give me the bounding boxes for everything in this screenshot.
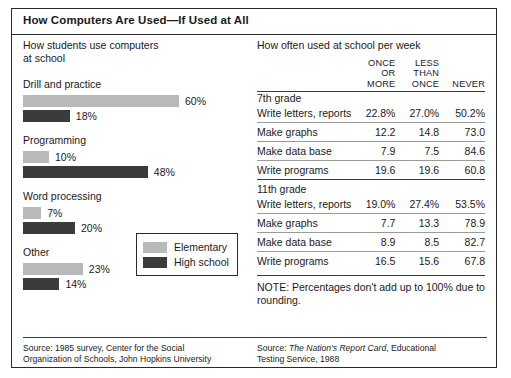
cell-once-or-more: 16.5: [355, 252, 399, 271]
source-divider: [23, 337, 487, 338]
cell-less-than-once: 14.8: [398, 123, 442, 142]
bar-group-label: Drill and practice: [23, 78, 251, 91]
bar-value-label: 48%: [154, 166, 175, 178]
table-group-name: 11th grade: [257, 180, 485, 196]
cell-once-or-more: 7.7: [355, 214, 399, 233]
bar-group: Drill and practice60%18%: [23, 78, 251, 122]
bar-high-school: [23, 222, 75, 234]
frequency-table-heading: How often used at school per week: [257, 39, 485, 52]
cell-less-than-once: 19.6: [398, 161, 442, 180]
cell-less-than-once: 8.5: [398, 233, 442, 252]
legend-label-elementary: Elementary: [174, 241, 227, 253]
bar-row: 48%: [23, 165, 251, 178]
cell-once-or-more: 19.0%: [355, 195, 399, 214]
table-row: Make data base8.98.582.7: [257, 233, 485, 252]
table-row: Write programs19.619.660.8: [257, 161, 485, 180]
bar-value-label: 18%: [76, 110, 97, 122]
legend-label-high-school: High school: [174, 256, 229, 268]
bar-value-label: 14%: [65, 278, 86, 290]
table-header: ONCE OR MORE LESS THAN ONCE NEVER: [257, 58, 485, 92]
cell-once-or-more: 19.6: [355, 161, 399, 180]
bar-row: 18%: [23, 109, 251, 122]
bar-value-label: 60%: [185, 95, 206, 107]
source-right-title: The Nation's Report Card: [289, 343, 386, 353]
table-group-header-row: 7th grade: [257, 92, 485, 105]
cell-once-or-more: 7.9: [355, 142, 399, 161]
cell-less-than-once: 27.0%: [398, 104, 442, 123]
column-header-once-or-more: ONCE OR MORE: [355, 58, 399, 92]
bar-group-label: Programming: [23, 134, 251, 147]
cell-never: 73.0: [442, 123, 485, 142]
chart-legend: Elementary High school: [136, 233, 238, 276]
table-row: Make graphs12.214.873.0: [257, 123, 485, 142]
bar-elementary: [23, 151, 49, 163]
table-group-name: 7th grade: [257, 92, 485, 105]
column-header-never: NEVER: [442, 58, 485, 92]
bar-row: 7%: [23, 206, 251, 219]
title-bar: How Computers Are Used—If Used at All: [12, 9, 496, 35]
table-row: Make graphs7.713.378.9: [257, 214, 485, 233]
bar-row: 60%: [23, 94, 251, 107]
bar-elementary: [23, 95, 179, 107]
source-left: Source: 1985 survey, Center for the Soci…: [23, 343, 245, 364]
bar-row: 10%: [23, 150, 251, 163]
bar-value-label: 10%: [55, 151, 76, 163]
cell-less-than-once: 15.6: [398, 252, 442, 271]
bar-elementary: [23, 263, 83, 275]
cell-never: 84.6: [442, 142, 485, 161]
cell-item: Write letters, reports: [257, 104, 355, 123]
frequency-table-column: How often used at school per week ONCE O…: [257, 39, 485, 306]
bar-value-label: 20%: [81, 222, 102, 234]
cell-never: 53.5%: [442, 195, 485, 214]
figure-panel: How Computers Are Used—If Used at All Ho…: [11, 8, 497, 368]
page-title: How Computers Are Used—If Used at All: [23, 14, 249, 26]
source-right-prefix: Source:: [257, 343, 289, 353]
cell-never: 67.8: [442, 252, 485, 271]
cell-never: 50.2%: [442, 104, 485, 123]
table-row: Make data base7.97.584.6: [257, 142, 485, 161]
bar-high-school: [23, 110, 70, 122]
cell-item: Make graphs: [257, 123, 355, 142]
cell-less-than-once: 13.3: [398, 214, 442, 233]
cell-less-than-once: 7.5: [398, 142, 442, 161]
cell-never: 60.8: [442, 161, 485, 180]
table-header-row: ONCE OR MORE LESS THAN ONCE NEVER: [257, 58, 485, 92]
cell-item: Make data base: [257, 142, 355, 161]
cell-item: Write letters, reports: [257, 195, 355, 214]
cell-less-than-once: 27.4%: [398, 195, 442, 214]
cell-once-or-more: 22.8%: [355, 104, 399, 123]
bar-value-label: 7%: [47, 207, 62, 219]
bar-high-school: [23, 166, 148, 178]
legend-item-elementary: Elementary: [143, 240, 231, 254]
table-row: Write programs16.515.667.8: [257, 252, 485, 271]
cell-once-or-more: 12.2: [355, 123, 399, 142]
bar-chart-heading: How students use computers at school: [23, 39, 251, 64]
bar-group: Programming10%48%: [23, 134, 251, 178]
source-right: Source: The Nation's Report Card, Educat…: [257, 343, 485, 364]
bar-group-label: Word processing: [23, 190, 251, 203]
table-note: NOTE: Percentages don't add up to 100% d…: [257, 275, 485, 306]
table-row: Write letters, reports19.0%27.4%53.5%: [257, 195, 485, 214]
column-header-less-than-once: LESS THAN ONCE: [398, 58, 442, 92]
cell-item: Write programs: [257, 252, 355, 271]
legend-swatch-elementary-icon: [143, 242, 167, 253]
column-header-item: [257, 58, 355, 92]
table-row: Write letters, reports22.8%27.0%50.2%: [257, 104, 485, 123]
bar-elementary: [23, 207, 41, 219]
bar-row: 14%: [23, 277, 251, 290]
cell-never: 82.7: [442, 233, 485, 252]
legend-item-high-school: High school: [143, 255, 231, 269]
cell-item: Write programs: [257, 161, 355, 180]
cell-item: Make data base: [257, 233, 355, 252]
bar-high-school: [23, 278, 59, 290]
bar-value-label: 23%: [89, 263, 110, 275]
bar-group: Word processing7%20%: [23, 190, 251, 234]
cell-never: 78.9: [442, 214, 485, 233]
cell-item: Make graphs: [257, 214, 355, 233]
legend-swatch-high-school-icon: [143, 257, 167, 268]
table-group-header-row: 11th grade: [257, 180, 485, 196]
frequency-table: ONCE OR MORE LESS THAN ONCE NEVER 7th gr…: [257, 58, 485, 271]
cell-once-or-more: 8.9: [355, 233, 399, 252]
table-body: 7th gradeWrite letters, reports22.8%27.0…: [257, 92, 485, 271]
